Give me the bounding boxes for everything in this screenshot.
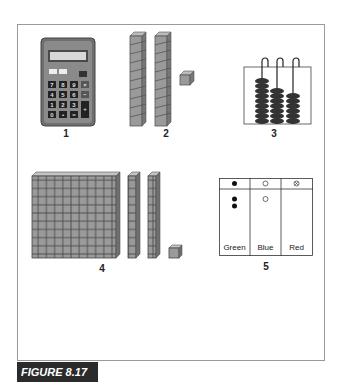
base-ten-flat-icon [30, 172, 190, 258]
base-ten-rods-icon [128, 30, 198, 126]
svg-text:−: − [83, 92, 87, 98]
item-number-4: 4 [92, 263, 112, 274]
svg-text:•: • [62, 112, 64, 118]
item-number-3: 3 [264, 128, 284, 139]
column-label-red: Red [281, 243, 312, 252]
item-number-2: 2 [156, 128, 176, 139]
abacus-icon [243, 57, 313, 125]
item-number-1: 1 [56, 128, 76, 139]
figure-label: FIGURE 8.17 [17, 362, 98, 382]
column-label-green: Green [219, 243, 250, 252]
column-label-blue: Blue [250, 243, 281, 252]
item-number-5: 5 [256, 261, 276, 272]
calculator-icon: 789× 456− 123+ 0•= [41, 38, 95, 126]
svg-text:+: + [83, 106, 87, 112]
svg-text:×: × [83, 82, 87, 88]
svg-text:=: = [72, 112, 76, 118]
